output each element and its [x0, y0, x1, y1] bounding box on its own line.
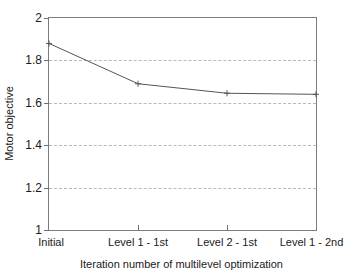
y-axis-title-label: Motor objective: [3, 86, 16, 161]
data-point-marker-3: [313, 91, 319, 97]
chart-figure: Motor objective 11.21.41.61.82 InitialLe…: [0, 0, 362, 280]
plot-area: 11.21.41.61.82 InitialLevel 1 - 1stLevel…: [48, 17, 317, 231]
x-axis-tick-label: Level 1 - 2nd: [280, 236, 344, 249]
x-axis-tick-label: Level 2 - 1st: [197, 236, 257, 249]
x-axis-title-label: Iteration number of multilevel optimizat…: [80, 258, 283, 270]
data-point-marker-0: [46, 40, 52, 46]
data-point-marker-2: [224, 90, 230, 96]
y-axis-tick-label: 1.2: [25, 182, 42, 194]
x-axis-tick-label: Initial: [38, 236, 64, 249]
y-axis-title: Motor objective: [2, 17, 16, 229]
x-axis-title: Iteration number of multilevel optimizat…: [48, 258, 315, 271]
y-axis-tick-label: 1.4: [25, 139, 42, 151]
y-axis-tick-label: 1: [35, 224, 42, 236]
x-axis-tick-label: Level 1 - 1st: [108, 236, 168, 249]
y-axis-tick-1: [44, 230, 49, 231]
y-axis-tick-label: 1.6: [25, 97, 42, 109]
y-axis-tick-label: 1.8: [25, 54, 42, 66]
data-point-marker-1: [135, 81, 141, 87]
data-series-plot: [49, 18, 316, 230]
series-line-motor-objective: [49, 43, 316, 94]
y-axis-tick-label: 2: [35, 12, 42, 24]
